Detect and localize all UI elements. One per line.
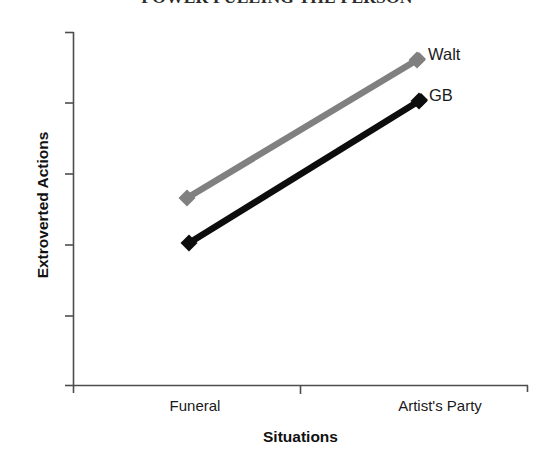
legend-label-gb: GB: [429, 86, 453, 105]
series-gb: [181, 93, 428, 252]
series-walt-line: [187, 60, 417, 198]
y-axis-ticks: [65, 33, 74, 386]
x-axis-ticks: [74, 386, 528, 395]
series-gb-line: [189, 101, 419, 243]
legend-label-walt: Walt: [428, 45, 460, 64]
plot-area: [0, 0, 554, 463]
chart-figure: POWER PULLING THE PERSON: [0, 0, 554, 463]
x-axis-title: Situations: [73, 428, 528, 446]
x-tick-label-artists-party: Artist's Party: [360, 397, 520, 414]
y-axis-title: Extroverted Actions: [34, 90, 52, 320]
x-tick-label-funeral: Funeral: [115, 397, 275, 414]
series-walt: [179, 52, 426, 207]
